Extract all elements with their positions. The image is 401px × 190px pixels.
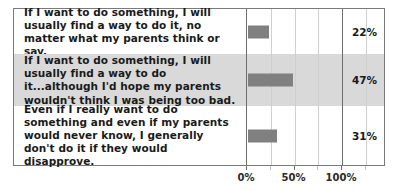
statement-text: If I want to do something, I will usuall…: [24, 5, 236, 58]
chart-table-frame: If I want to do something, I will usuall…: [13, 8, 385, 166]
x-tick-label: 100%: [319, 172, 363, 183]
x-axis: 0%50%100%: [13, 166, 385, 190]
x-tick-mark: [246, 166, 247, 170]
gridline-minor: [366, 9, 367, 165]
x-tick-mark: [341, 166, 342, 170]
bar: [248, 25, 269, 38]
zero-axis-line: [246, 9, 247, 165]
x-tick-mark-minor: [317, 166, 318, 170]
chart-figure: If I want to do something, I will usuall…: [0, 0, 401, 190]
bar: [248, 129, 277, 142]
x-tick-mark-minor: [365, 166, 366, 170]
value-column-divider: [342, 9, 343, 165]
statement-text: Even if I really want to do something an…: [24, 102, 236, 168]
x-tick-label: 50%: [272, 172, 316, 183]
x-tick-mark-minor: [270, 166, 271, 170]
gridline-minor: [318, 9, 319, 165]
gridline-major: [295, 9, 296, 165]
plot-area: [247, 9, 386, 165]
x-tick-label: 0%: [224, 172, 268, 183]
x-tick-mark: [294, 166, 295, 170]
bar: [248, 74, 293, 87]
statement-text: If I want to do something, I will usuall…: [24, 54, 236, 107]
